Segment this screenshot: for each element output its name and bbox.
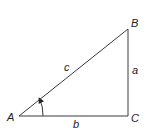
- vertex-label-c: C: [131, 112, 139, 124]
- vertex-label-b: B: [131, 17, 138, 29]
- side-label-a: a: [132, 64, 138, 76]
- vertex-label-a: A: [6, 111, 14, 123]
- side-hypotenuse: [19, 29, 128, 116]
- side-label-b: b: [73, 118, 79, 130]
- arc-arrow-icon: [40, 100, 43, 116]
- side-label-c: c: [64, 61, 70, 73]
- triangle-shape: [19, 29, 128, 116]
- right-triangle-diagram: A B C c a b: [0, 0, 147, 139]
